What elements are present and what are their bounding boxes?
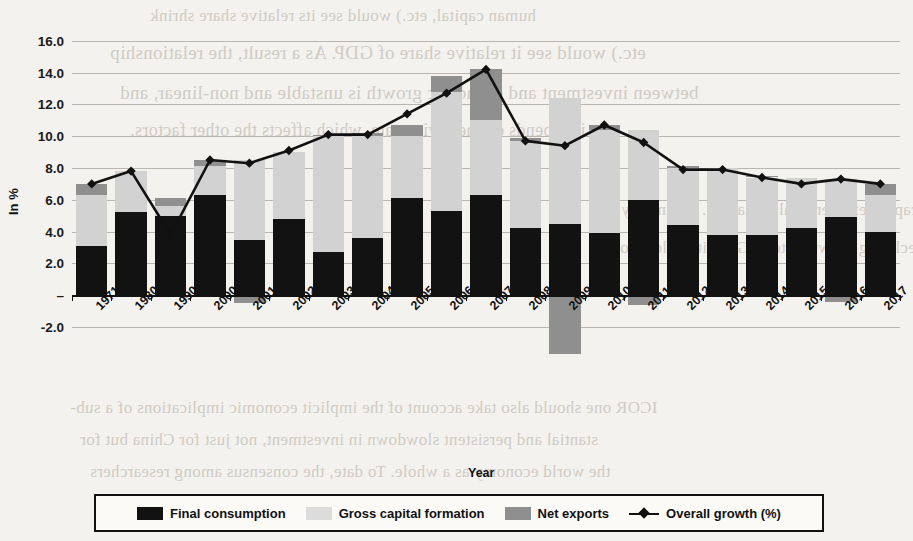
growth-line-path: [92, 69, 881, 234]
growth-line-marker: [402, 109, 411, 118]
growth-line-marker: [205, 155, 214, 164]
growth-line-marker: [797, 179, 806, 188]
growth-line-marker: [600, 120, 609, 129]
legend-item-final-consumption: Final consumption: [137, 506, 286, 521]
growth-line-marker: [363, 130, 372, 139]
legend-item-gross-capital-formation: Gross capital formation: [306, 506, 485, 521]
y-tick-label: 10.0: [18, 129, 64, 144]
growth-line-marker: [324, 130, 333, 139]
y-tick-label: –: [18, 288, 64, 303]
y-tick-label: 12.0: [18, 97, 64, 112]
y-tick-label: 6.0: [18, 192, 64, 207]
y-tick-label: 4.0: [18, 224, 64, 239]
final-consumption-swatch-icon: [137, 507, 163, 520]
gross-capital-formation-swatch-icon: [306, 507, 332, 520]
growth-line-marker: [718, 165, 727, 174]
y-tick-label: 16.0: [18, 33, 64, 48]
legend-label: Overall growth (%): [666, 506, 781, 521]
y-tick-label: 8.0: [18, 160, 64, 175]
y-tick-label: 2.0: [18, 256, 64, 271]
growth-line-marker: [245, 159, 254, 168]
growth-line-marker: [876, 179, 885, 188]
legend-label: Net exports: [538, 506, 610, 521]
x-tick-mark: [72, 295, 73, 301]
legend-label: Final consumption: [170, 506, 286, 521]
net-exports-swatch-icon: [505, 507, 531, 520]
y-tick-label: -2.0: [18, 320, 64, 335]
growth-line-marker: [87, 179, 96, 188]
chart-legend: Final consumption Gross capital formatio…: [94, 494, 824, 532]
growth-decomposition-chart: In % 16.014.012.010.08.06.04.02.0–-2.0 1…: [0, 0, 913, 541]
growth-line-marker: [560, 141, 569, 150]
overall-growth-line: [72, 28, 900, 362]
legend-label: Gross capital formation: [339, 506, 485, 521]
growth-line-marker: [757, 173, 766, 182]
y-tick-label: 14.0: [18, 65, 64, 80]
plot-area: 16.014.012.010.08.06.04.02.0–-2.0 197119…: [72, 28, 900, 362]
x-axis-label: Year: [468, 466, 494, 480]
legend-item-net-exports: Net exports: [505, 506, 610, 521]
legend-item-overall-growth: Overall growth (%): [629, 506, 781, 521]
growth-line-marker: [284, 146, 293, 155]
growth-line-marker: [836, 174, 845, 183]
overall-growth-line-icon: [629, 507, 659, 520]
